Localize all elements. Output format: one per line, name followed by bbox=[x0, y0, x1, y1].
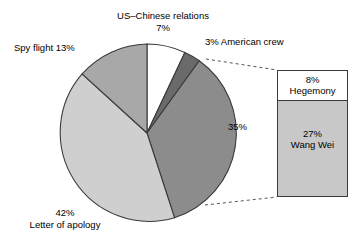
pie-label-american-crew: 3% American crew bbox=[205, 36, 284, 48]
detail-bar-hegemony-pct: 8% bbox=[278, 74, 347, 86]
detail-bar-segment-hegemony[interactable]: 8% Hegemony bbox=[278, 71, 347, 100]
pie-label-us-chinese-relations-name: US–Chinese relations bbox=[88, 10, 238, 22]
pie-label-35-percent: 35% bbox=[228, 121, 247, 133]
detail-bar-wang-wei-pct: 27% bbox=[278, 128, 347, 140]
pie-slices bbox=[60, 44, 236, 221]
detail-bar-segment-wang-wei[interactable]: 27% Wang Wei bbox=[278, 100, 347, 196]
pie-label-american-crew-text: 3% American crew bbox=[205, 36, 284, 47]
pie-label-us-chinese-relations: US–Chinese relations 7% bbox=[88, 10, 238, 33]
pie-label-spy-flight: Spy flight 13% bbox=[14, 42, 75, 54]
pie-label-us-chinese-relations-pct: 7% bbox=[88, 22, 238, 34]
pie-label-35-percent-pct: 35% bbox=[228, 121, 247, 132]
pie-label-letter-of-apology-name: Letter of apology bbox=[5, 219, 125, 231]
pie-label-letter-of-apology-pct: 42% bbox=[5, 207, 125, 219]
detail-breakout-bar: 8% Hegemony 27% Wang Wei bbox=[277, 70, 348, 197]
pie-chart-figure: US–Chinese relations 7% 3% American crew… bbox=[0, 0, 354, 250]
detail-bar-hegemony-name: Hegemony bbox=[278, 85, 347, 97]
pie-label-letter-of-apology: 42% Letter of apology bbox=[5, 207, 125, 230]
detail-bar-wang-wei-name: Wang Wei bbox=[278, 139, 347, 151]
pie-label-spy-flight-text: Spy flight 13% bbox=[14, 42, 75, 53]
